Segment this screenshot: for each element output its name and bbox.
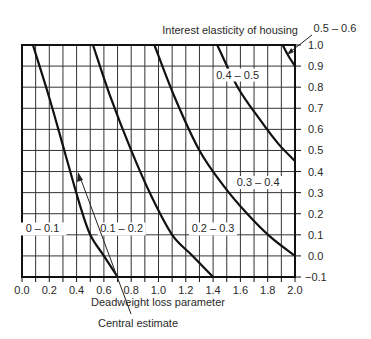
y-tick-label: 0.4: [308, 166, 323, 178]
central-estimate-label: Central estimate: [98, 317, 178, 329]
y-tick-label: 0.3: [308, 187, 323, 199]
y-tick-label: 0.9: [308, 60, 323, 72]
arrow-head-icon: [77, 172, 83, 182]
region-label: 0 – 0.1: [26, 222, 60, 234]
boundary-curve: [217, 45, 295, 161]
y-tick-label: 1.0: [308, 39, 323, 51]
region-label: 0.1 – 0.2: [100, 222, 143, 234]
x-tick-label: 0.6: [96, 284, 111, 296]
x-tick-label: 1.6: [233, 284, 248, 296]
boundary-curve: [283, 45, 295, 66]
y-tick-label: 0.1: [308, 229, 323, 241]
y-axis-ticks: 1.00.90.80.70.60.50.40.30.20.10.0−0.1: [295, 39, 327, 283]
x-axis-ticks: 0.00.20.40.60.81.01.21.41.61.82.0: [14, 277, 302, 296]
x-tick-label: 2.0: [287, 284, 302, 296]
x-tick-label: 0.0: [14, 284, 29, 296]
boundary-curve: [93, 45, 213, 277]
region-label: 0.2 – 0.3: [192, 222, 235, 234]
x-tick-label: 1.0: [151, 284, 166, 296]
y-tick-label: 0.0: [308, 250, 323, 262]
x-tick-label: 1.8: [260, 284, 275, 296]
y-tick-label: 0.7: [308, 102, 323, 114]
x-tick-label: 1.4: [205, 284, 220, 296]
x-tick-label: 0.4: [69, 284, 84, 296]
region-label: 0.4 – 0.5: [216, 69, 259, 81]
y-tick-label: 0.5: [308, 144, 323, 156]
x-tick-label: 0.8: [124, 284, 139, 296]
x-tick-label: 0.2: [42, 284, 57, 296]
legend-title: Interest elasticity of housing: [162, 24, 298, 36]
y-tick-label: 0.8: [308, 81, 323, 93]
y-tick-label: 0.6: [308, 123, 323, 135]
region-label: 0.3 – 0.4: [237, 176, 280, 188]
region-label: 0.5 – 0.6: [314, 22, 357, 34]
x-axis-label: Deadweight loss parameter: [91, 296, 225, 308]
arrow-head-icon: [287, 48, 294, 55]
y-tick-label: −0.1: [305, 271, 327, 283]
chart: 0.00.20.40.60.81.01.21.41.61.82.0 1.00.9…: [0, 0, 371, 339]
x-tick-label: 1.2: [178, 284, 193, 296]
y-tick-label: 0.2: [308, 208, 323, 220]
